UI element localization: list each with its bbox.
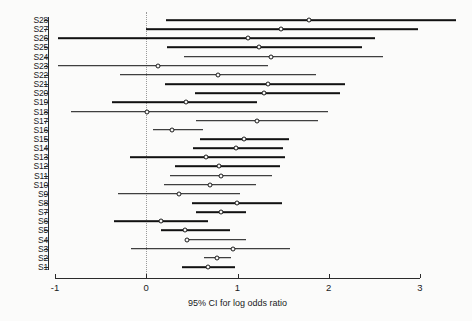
x-axis-tick-label: -1 xyxy=(51,282,59,293)
confidence-interval-line xyxy=(166,19,456,21)
y-axis-tick xyxy=(44,203,48,204)
point-estimate-marker xyxy=(269,54,274,59)
x-axis-line xyxy=(55,278,420,279)
y-axis-tick xyxy=(44,29,48,30)
point-estimate-marker xyxy=(182,228,187,233)
confidence-interval-line xyxy=(58,38,376,40)
y-axis-labels: S28S27S26S25S24S23S22S21S20S19S18S17S16S… xyxy=(14,0,48,321)
y-axis-tick xyxy=(44,47,48,48)
point-estimate-marker xyxy=(241,136,246,141)
y-axis-tick xyxy=(44,84,48,85)
confidence-interval-line xyxy=(195,92,340,94)
zero-reference-line xyxy=(146,12,147,278)
x-axis-tick xyxy=(329,274,330,278)
confidence-interval-line xyxy=(71,111,327,113)
plot-area: S28S27S26S25S24S23S22S21S20S19S18S17S16S… xyxy=(0,0,472,321)
confidence-interval-line xyxy=(153,129,203,131)
confidence-interval-line xyxy=(175,166,280,168)
point-estimate-marker xyxy=(208,182,213,187)
y-axis-tick xyxy=(44,38,48,39)
point-estimate-marker xyxy=(254,118,259,123)
y-axis-tick xyxy=(44,258,48,259)
y-axis-tick xyxy=(44,240,48,241)
point-estimate-marker xyxy=(279,27,284,32)
point-estimate-marker xyxy=(145,109,150,114)
y-axis-tick xyxy=(44,185,48,186)
point-estimate-marker xyxy=(233,146,238,151)
point-estimate-marker xyxy=(185,237,190,242)
x-axis-tick-label: 2 xyxy=(326,282,331,293)
y-axis-tick xyxy=(44,57,48,58)
point-estimate-marker xyxy=(216,72,221,77)
confidence-interval-line xyxy=(184,56,384,58)
confidence-interval-line xyxy=(58,65,268,67)
point-estimate-marker xyxy=(184,100,189,105)
point-estimate-marker xyxy=(177,191,182,196)
y-axis-tick xyxy=(44,75,48,76)
point-estimate-marker xyxy=(245,36,250,41)
y-axis-tick xyxy=(44,121,48,122)
x-axis-title: 95% CI for log odds ratio xyxy=(188,298,287,308)
point-estimate-marker xyxy=(257,45,262,50)
x-axis-tick xyxy=(238,274,239,278)
y-axis-tick xyxy=(44,66,48,67)
point-estimate-marker xyxy=(204,155,209,160)
y-axis-tick xyxy=(44,166,48,167)
y-axis-tick xyxy=(44,194,48,195)
point-estimate-marker xyxy=(169,127,174,132)
point-estimate-marker xyxy=(234,201,239,206)
point-estimate-marker xyxy=(215,255,220,260)
point-estimate-marker xyxy=(206,265,211,270)
x-axis-tick-label: 3 xyxy=(417,282,422,293)
y-axis-tick xyxy=(44,93,48,94)
confidence-interval-line xyxy=(187,239,245,241)
confidence-interval-line xyxy=(165,83,345,85)
y-axis-tick xyxy=(44,267,48,268)
point-estimate-marker xyxy=(158,219,163,224)
y-axis-tick xyxy=(44,130,48,131)
x-axis-tick-label: 0 xyxy=(144,282,149,293)
y-axis-tick xyxy=(44,20,48,21)
confidence-interval-line xyxy=(161,230,230,232)
point-estimate-marker xyxy=(156,63,161,68)
x-axis-tick-label: 1 xyxy=(235,282,240,293)
x-axis-tick xyxy=(146,274,147,278)
point-estimate-marker xyxy=(219,210,224,215)
confidence-interval-line xyxy=(167,47,361,49)
y-axis-tick xyxy=(44,112,48,113)
point-estimate-marker xyxy=(261,91,266,96)
point-estimate-marker xyxy=(219,173,224,178)
point-estimate-marker xyxy=(230,246,235,251)
y-axis-tick xyxy=(44,148,48,149)
y-axis-tick xyxy=(44,139,48,140)
y-axis-tick xyxy=(44,212,48,213)
y-axis-tick xyxy=(44,221,48,222)
confidence-interval-line xyxy=(131,248,290,250)
y-axis-tick xyxy=(44,249,48,250)
forest-plot: S28S27S26S25S24S23S22S21S20S19S18S17S16S… xyxy=(0,0,472,321)
point-estimate-marker xyxy=(265,82,270,87)
y-axis-tick xyxy=(44,230,48,231)
y-axis-tick xyxy=(44,157,48,158)
y-axis-tick xyxy=(44,102,48,103)
x-axis-tick xyxy=(420,274,421,278)
point-estimate-marker xyxy=(217,164,222,169)
x-axis-tick xyxy=(55,274,56,278)
point-estimate-marker xyxy=(306,18,311,23)
y-axis-tick xyxy=(44,176,48,177)
